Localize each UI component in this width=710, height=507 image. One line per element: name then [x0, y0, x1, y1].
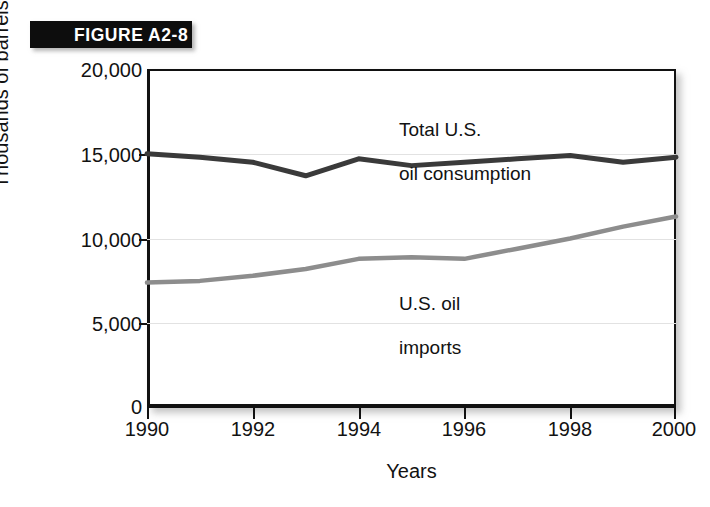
x-tick-label-2000: 2000: [629, 418, 710, 441]
series-label-total-us-oil-consumption: Total U.S. oil consumption: [399, 97, 531, 207]
y-tick-label-15000: 15,000: [22, 144, 142, 167]
plot-area: Total U.S. oil consumption U.S. oil impo…: [147, 69, 676, 408]
y-axis-title: Thousands of barrels a day: [0, 0, 13, 232]
x-tick-label-1994: 1994: [314, 418, 404, 441]
y-tick-mark-10000: [139, 239, 147, 241]
y-tick-mark-5000: [139, 323, 147, 325]
series-label-us-oil-imports: U.S. oil imports: [399, 271, 461, 381]
x-tick-label-1996: 1996: [419, 418, 509, 441]
x-axis-title: Years: [147, 460, 676, 483]
y-tick-label-20000: 20,000: [22, 59, 142, 82]
series-label-consumption-line1: Total U.S.: [399, 119, 531, 141]
y-tick-label-0: 0: [22, 396, 142, 419]
y-tick-label-10000: 10,000: [22, 229, 142, 252]
line-chart: Thousands of barrels a day 20,000 15,000…: [0, 0, 710, 507]
x-tick-label-1990: 1990: [102, 418, 192, 441]
x-tick-label-1998: 1998: [525, 418, 615, 441]
series-label-imports-line2: imports: [399, 337, 461, 359]
series-label-imports-line1: U.S. oil: [399, 293, 461, 315]
y-tick-label-5000: 5,000: [22, 313, 142, 336]
x-tick-label-1992: 1992: [208, 418, 298, 441]
series-label-consumption-line2: oil consumption: [399, 163, 531, 185]
